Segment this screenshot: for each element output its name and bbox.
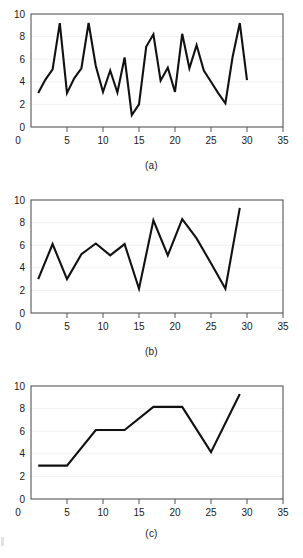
svg-text:15: 15	[133, 321, 145, 332]
svg-text:35: 35	[277, 135, 289, 146]
chart-c-svg: 05101520253035 0246810	[0, 372, 303, 532]
chart-a-caption: (a)	[0, 160, 303, 171]
svg-text:25: 25	[205, 321, 217, 332]
svg-text:15: 15	[133, 135, 145, 146]
chart-c-xtick-labels: 05101520253035	[15, 507, 289, 518]
svg-text:25: 25	[205, 507, 217, 518]
chart-b-series-line	[38, 208, 240, 289]
chart-b-ytick-labels: 0246810	[14, 195, 26, 319]
chart-panel-b: 05101520253035 0246810 (b)	[0, 186, 303, 372]
chart-a-ytick-labels: 0246810	[14, 9, 26, 133]
chart-b-svg: 05101520253035 0246810	[0, 186, 303, 346]
svg-text:8: 8	[19, 403, 25, 414]
svg-text:6: 6	[19, 54, 25, 65]
svg-text:10: 10	[97, 507, 109, 518]
svg-text:30: 30	[241, 507, 253, 518]
chart-c-series-line	[38, 394, 240, 466]
svg-text:0: 0	[15, 321, 21, 332]
svg-text:0: 0	[19, 494, 25, 505]
chart-b-xticks	[67, 313, 283, 318]
page-edge-artifact	[1, 537, 4, 546]
svg-text:35: 35	[277, 321, 289, 332]
svg-text:4: 4	[19, 448, 25, 459]
chart-a-svg: 05101520253035 0246810	[0, 0, 303, 160]
chart-b-gridlines	[31, 223, 283, 291]
svg-text:0: 0	[15, 507, 21, 518]
svg-text:10: 10	[14, 195, 26, 206]
svg-text:5: 5	[64, 135, 70, 146]
svg-text:2: 2	[19, 99, 25, 110]
chart-b-plot: 05101520253035 0246810	[0, 186, 303, 350]
svg-text:10: 10	[14, 381, 26, 392]
svg-text:4: 4	[19, 76, 25, 87]
chart-c-ytick-labels: 0246810	[14, 381, 26, 505]
chart-c-caption: (c)	[0, 528, 303, 539]
chart-panel-c: 05101520253035 0246810 (c)	[0, 372, 303, 558]
svg-text:2: 2	[19, 471, 25, 482]
chart-c-gridlines	[31, 409, 283, 477]
svg-text:4: 4	[19, 262, 25, 273]
chart-a-plot: 05101520253035 0246810	[0, 0, 303, 164]
svg-text:30: 30	[241, 135, 253, 146]
svg-text:5: 5	[64, 321, 70, 332]
svg-text:0: 0	[15, 135, 21, 146]
chart-c-plot: 05101520253035 0246810	[0, 372, 303, 536]
chart-c-frame	[31, 386, 283, 499]
svg-text:15: 15	[133, 507, 145, 518]
svg-text:5: 5	[64, 507, 70, 518]
svg-text:10: 10	[97, 135, 109, 146]
chart-b-frame	[31, 200, 283, 313]
svg-text:0: 0	[19, 122, 25, 133]
svg-text:30: 30	[241, 321, 253, 332]
svg-text:6: 6	[19, 240, 25, 251]
svg-text:8: 8	[19, 31, 25, 42]
svg-text:20: 20	[169, 507, 181, 518]
svg-text:8: 8	[19, 217, 25, 228]
svg-text:25: 25	[205, 135, 217, 146]
chart-b-caption: (b)	[0, 346, 303, 357]
svg-text:10: 10	[97, 321, 109, 332]
svg-text:35: 35	[277, 507, 289, 518]
svg-text:0: 0	[19, 308, 25, 319]
svg-text:20: 20	[169, 135, 181, 146]
svg-text:20: 20	[169, 321, 181, 332]
chart-panel-a: 05101520253035 0246810 (a)	[0, 0, 303, 186]
chart-b-xtick-labels: 05101520253035	[15, 321, 289, 332]
chart-c-xticks	[67, 499, 283, 504]
svg-text:6: 6	[19, 426, 25, 437]
svg-text:10: 10	[14, 9, 26, 20]
chart-a-xticks	[67, 127, 283, 132]
chart-a-xtick-labels: 05101520253035	[15, 135, 289, 146]
svg-text:2: 2	[19, 285, 25, 296]
three-panel-line-chart-figure: 05101520253035 0246810 (a) 0510152025303…	[0, 0, 303, 558]
